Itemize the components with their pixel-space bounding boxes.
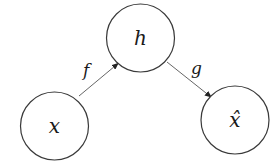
edge-label-g: g <box>191 58 202 78</box>
edge-g: g <box>167 58 211 97</box>
edge-label-f: f <box>81 60 92 80</box>
edge-f: f <box>79 60 118 96</box>
node-x-label: x <box>49 114 60 138</box>
node-xhat-label: x̂ <box>229 108 240 132</box>
node-xhat: x̂ <box>201 86 269 154</box>
node-h: h <box>107 4 175 72</box>
node-x: x <box>21 92 89 160</box>
autoencoder-diagram: f g h x x̂ <box>0 0 280 163</box>
arrow-g <box>167 62 211 97</box>
node-h-label: h <box>134 26 147 50</box>
